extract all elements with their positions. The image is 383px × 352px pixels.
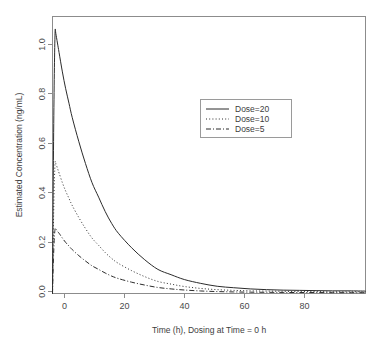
x-axis-title: Time (h), Dosing at Time = 0 h xyxy=(152,325,267,335)
chart-container: 1.0 0.8 0.6 0.4 0.2 0.0 0 20 40 60 80 Es… xyxy=(0,0,383,352)
y-tick-label: 0.4 xyxy=(37,186,47,199)
y-tick-label: 1.0 xyxy=(37,38,47,51)
legend-label: Dose=20 xyxy=(235,104,270,114)
x-tick-label: 40 xyxy=(179,301,189,311)
y-tick-label: 0.2 xyxy=(37,236,47,249)
plot-background xyxy=(0,0,383,352)
y-tick-label: 0.8 xyxy=(37,88,47,101)
x-tick-label: 20 xyxy=(119,301,129,311)
x-tick-label: 80 xyxy=(299,301,309,311)
chart-legend: Dose=20 Dose=10 Dose=5 xyxy=(201,100,292,138)
y-axis-title: Estimated Concentration (ng/mL) xyxy=(14,92,24,217)
x-tick-label: 0 xyxy=(62,301,67,311)
legend-label: Dose=5 xyxy=(235,124,265,134)
x-tick-label: 60 xyxy=(239,301,249,311)
legend-label: Dose=10 xyxy=(235,114,270,124)
y-tick-label: 0.6 xyxy=(37,137,47,150)
y-tick-label: 0.0 xyxy=(37,285,47,298)
concentration-time-plot: 1.0 0.8 0.6 0.4 0.2 0.0 0 20 40 60 80 Es… xyxy=(0,0,383,352)
